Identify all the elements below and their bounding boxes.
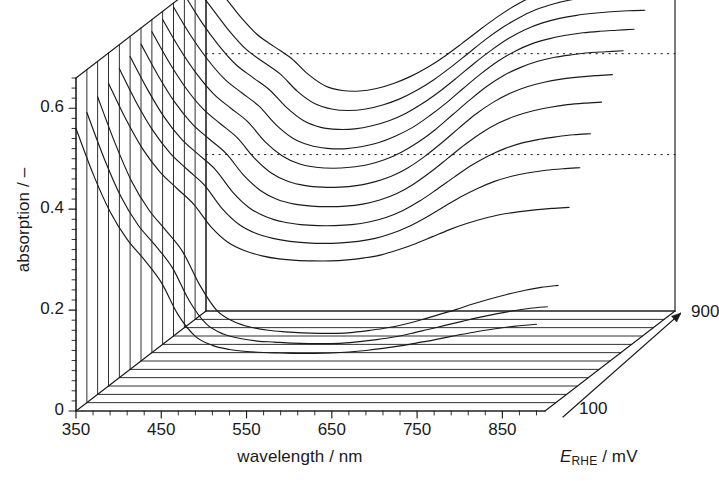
x-tick-label-5: 850 xyxy=(474,420,530,440)
z-axis-back-label: 900 xyxy=(691,302,719,322)
spectrum-curve xyxy=(152,32,612,188)
x-tick-label-4: 750 xyxy=(389,420,445,440)
z-axis-front-label: 100 xyxy=(579,399,607,419)
y-tick-label-3: 0.6 xyxy=(20,97,64,117)
spectrum-curve xyxy=(119,69,579,244)
spectrum-curve xyxy=(98,97,558,334)
spectra-curves xyxy=(76,0,666,354)
spectrum-curve xyxy=(130,57,590,226)
y-tick-label-0: 0 xyxy=(20,400,64,420)
spectrum-curve xyxy=(174,7,634,149)
z-axis-subscript: RHE xyxy=(571,454,597,468)
x-tick-label-2: 550 xyxy=(219,420,275,440)
x-axis-title: wavelength / nm xyxy=(195,447,405,467)
y-axis-title: absorption / – xyxy=(14,135,34,305)
z-axis-units: / mV xyxy=(602,447,637,466)
x-tick-label-1: 450 xyxy=(133,420,189,440)
spectrum-curve xyxy=(184,0,644,129)
axis-ticks xyxy=(69,78,536,418)
spectrum-curve xyxy=(195,0,655,110)
reference-lines xyxy=(206,54,675,155)
x-tick-label-0: 350 xyxy=(48,420,104,440)
spectrum-curve xyxy=(163,19,623,168)
z-axis-title: ERHE / mV xyxy=(560,447,690,467)
z-axis-symbol: E xyxy=(560,447,571,466)
x-tick-label-3: 650 xyxy=(304,420,360,440)
